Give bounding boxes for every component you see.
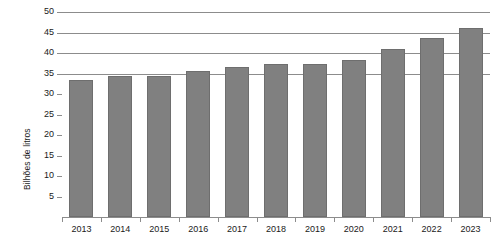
bar-slot (179, 12, 218, 217)
y-axis-tick-label: 15 (44, 149, 54, 162)
bar-slot (334, 12, 373, 217)
y-axis-title: Bilhões de litros (22, 0, 36, 190)
bar (147, 76, 171, 217)
bar (264, 64, 288, 217)
bar-slot (140, 12, 179, 217)
x-axis-tick (334, 217, 335, 222)
x-axis-tick (218, 217, 219, 222)
x-axis-tick (412, 217, 413, 222)
y-axis-tick-label: 25 (44, 108, 54, 121)
y-axis-tick-label: 10 (44, 169, 54, 182)
y-axis-tick-label: 40 (44, 46, 54, 59)
y-axis-tick-label: 45 (44, 26, 54, 39)
x-axis-tick-label: 2016 (188, 223, 208, 236)
bar-slot (373, 12, 412, 217)
bar-slot (257, 12, 296, 217)
y-axis-tick-label: 35 (44, 67, 54, 80)
bar-slot (218, 12, 257, 217)
bar (69, 80, 93, 217)
plot-area: 5101520253035404550 (62, 12, 490, 217)
bar (420, 38, 444, 217)
x-axis-tick-label: 2018 (266, 223, 286, 236)
bar (186, 71, 210, 217)
bar-slot (62, 12, 101, 217)
x-axis-tick-label: 2021 (383, 223, 403, 236)
bar-chart: Bilhões de litros 5101520253035404550 20… (0, 0, 503, 248)
bars-group (62, 12, 490, 217)
bar (459, 28, 483, 217)
x-axis-tick (62, 217, 63, 222)
x-axis-tick-label: 2015 (149, 223, 169, 236)
y-axis-tick-label: 30 (44, 87, 54, 100)
x-axis-tick (257, 217, 258, 222)
x-axis-labels: 2013201420152016201720182019202020212022… (62, 223, 490, 237)
x-axis-tick-label: 2022 (422, 223, 442, 236)
y-axis-tick-label: 5 (49, 190, 54, 203)
x-axis-tick-label: 2019 (305, 223, 325, 236)
x-axis-tick-label: 2020 (344, 223, 364, 236)
y-axis-tick-label: 20 (44, 128, 54, 141)
y-axis-tick-label: 50 (44, 5, 54, 18)
x-axis-tick (490, 217, 491, 222)
bar (303, 64, 327, 217)
x-axis-tick-label: 2017 (227, 223, 247, 236)
bar-slot (101, 12, 140, 217)
bar-slot (451, 12, 490, 217)
x-axis-tick-label: 2014 (110, 223, 130, 236)
x-axis-tick (451, 217, 452, 222)
x-axis-tick (179, 217, 180, 222)
bar (108, 76, 132, 217)
bar (342, 60, 366, 217)
bar-slot (295, 12, 334, 217)
bar-slot (412, 12, 451, 217)
x-axis-tick (373, 217, 374, 222)
x-axis-tick-label: 2013 (71, 223, 91, 236)
bar (381, 49, 405, 217)
x-axis-tick (140, 217, 141, 222)
x-axis-tick (295, 217, 296, 222)
bar (225, 67, 249, 217)
x-axis-tick-label: 2023 (461, 223, 481, 236)
x-axis-tick (101, 217, 102, 222)
